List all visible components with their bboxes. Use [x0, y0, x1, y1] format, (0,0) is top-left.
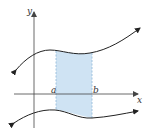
diagram-canvas: y x a b — [0, 0, 163, 133]
bound-label-a: a — [51, 85, 56, 95]
y-axis-label: y — [26, 6, 33, 16]
bound-label-b: b — [93, 85, 99, 95]
area-between-curves-diagram: y x a b — [0, 0, 163, 133]
x-axis-label: x — [137, 95, 142, 105]
shaded-region — [56, 51, 92, 118]
